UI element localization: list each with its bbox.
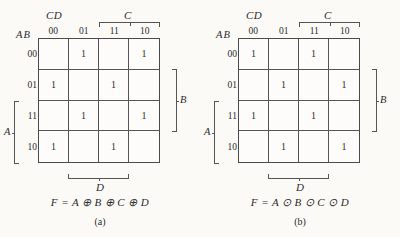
- b-variable-label: B: [180, 94, 186, 105]
- kmap-cell: 1: [69, 39, 99, 70]
- kmap-grid-a: 1 1 1 1 1 1 1 1: [38, 38, 160, 163]
- kmap-cell: [329, 101, 359, 132]
- karnaugh-map-figure-a: CD C 00 01 11 10 AB 00 01 11 10 1 1 1 1 …: [0, 0, 200, 237]
- formula-a: F = A ⊕ B ⊕ C ⊕ D: [0, 196, 200, 209]
- d-variable-bracket: [268, 172, 329, 179]
- cd-axis-label: CD: [246, 9, 262, 21]
- row-header: 10: [222, 132, 237, 163]
- kmap-cell: [69, 70, 99, 101]
- kmap-cell: 1: [239, 101, 269, 132]
- d-variable-bracket: [68, 172, 129, 179]
- kmap-cell: 1: [69, 101, 99, 132]
- row-headers-b: 00 01 11 10: [222, 38, 237, 163]
- column-header: 11: [99, 25, 130, 37]
- row-header: 10: [22, 132, 37, 163]
- kmap-cell: 1: [39, 70, 69, 101]
- a-variable-label: A: [204, 126, 210, 137]
- row-header: 00: [222, 38, 237, 69]
- kmap-cell: [39, 39, 69, 70]
- kmap-cell: [39, 101, 69, 132]
- column-header: 01: [269, 25, 300, 37]
- row-header: 11: [222, 101, 237, 132]
- kmap-cell: 1: [99, 131, 129, 162]
- row-header: 01: [222, 69, 237, 100]
- kmap-cell: [99, 101, 129, 132]
- kmap-cell: [239, 70, 269, 101]
- column-header: 01: [69, 25, 100, 37]
- kmap-cell: 1: [299, 39, 329, 70]
- kmap-cell: 1: [129, 101, 159, 132]
- kmap-cell: 1: [329, 70, 359, 101]
- kmap-cell: 1: [329, 131, 359, 162]
- kmap-cell: [239, 131, 269, 162]
- a-bracket-center-tick: [12, 133, 15, 134]
- a-variable-bracket: [14, 101, 21, 164]
- kmap-cell: [69, 131, 99, 162]
- kmap-cell: [329, 39, 359, 70]
- column-header: 10: [330, 25, 361, 37]
- c-variable-label: C: [124, 9, 131, 21]
- figure-caption-b: (b): [200, 216, 400, 227]
- d-variable-label: D: [200, 181, 400, 193]
- kmap-cell: 1: [269, 70, 299, 101]
- d-variable-label: D: [0, 181, 200, 193]
- row-headers-a: 00 01 11 10: [22, 38, 37, 163]
- kmap-cell: [99, 39, 129, 70]
- kmap-cell: 1: [129, 39, 159, 70]
- column-headers-b: 00 01 11 10: [238, 25, 360, 37]
- cd-axis-label: CD: [46, 9, 62, 21]
- kmap-cell: 1: [299, 101, 329, 132]
- kmap-grid-b: 1 1 1 1 1 1 1 1: [238, 38, 360, 163]
- formula-b: F = A ⊙ B ⊙ C ⊙ D: [200, 196, 400, 209]
- kmap-cell: [269, 101, 299, 132]
- kmap-cell: [299, 131, 329, 162]
- a-variable-bracket: [214, 101, 221, 164]
- kmap-cell: 1: [39, 131, 69, 162]
- kmap-cell: [129, 70, 159, 101]
- column-headers-a: 00 01 11 10: [38, 25, 160, 37]
- column-header: 10: [130, 25, 161, 37]
- column-header: 00: [238, 25, 269, 37]
- karnaugh-map-figure-b: CD C 00 01 11 10 AB 00 01 11 10 1 1 1 1 …: [200, 0, 400, 237]
- b-bracket-center-tick: [376, 101, 379, 102]
- row-header: 01: [22, 69, 37, 100]
- a-variable-label: A: [4, 126, 10, 137]
- row-header: 00: [22, 38, 37, 69]
- row-header: 11: [22, 101, 37, 132]
- b-variable-bracket: [370, 69, 377, 132]
- column-header: 11: [299, 25, 330, 37]
- column-header: 00: [38, 25, 69, 37]
- kmap-cell: 1: [239, 39, 269, 70]
- a-bracket-center-tick: [212, 133, 215, 134]
- b-variable-bracket: [170, 69, 177, 132]
- c-variable-label: C: [324, 9, 331, 21]
- b-variable-label: B: [380, 94, 386, 105]
- kmap-cell: [299, 70, 329, 101]
- b-bracket-center-tick: [176, 101, 179, 102]
- kmap-cell: 1: [269, 131, 299, 162]
- figure-caption-a: (a): [0, 216, 200, 227]
- kmap-cell: [129, 131, 159, 162]
- kmap-cell: [269, 39, 299, 70]
- kmap-cell: 1: [99, 70, 129, 101]
